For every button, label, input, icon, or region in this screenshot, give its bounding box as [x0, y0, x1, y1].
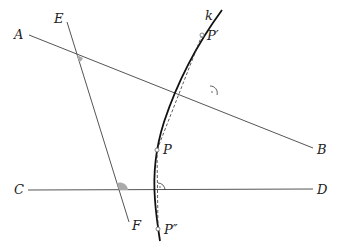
- right-angle-mark-AB: [210, 86, 217, 95]
- label-k: k: [205, 8, 213, 23]
- label-E: E: [53, 11, 64, 26]
- line-EF: [67, 22, 129, 222]
- label-P-double-prime: P″: [163, 222, 178, 237]
- line-CD: [28, 189, 313, 190]
- line-AB: [29, 35, 313, 148]
- right-angle-dot-AB: [211, 91, 212, 92]
- label-F: F: [131, 218, 142, 233]
- label-P: P: [162, 142, 172, 157]
- label-D: D: [316, 182, 328, 197]
- label-P-prime: P′: [206, 28, 219, 43]
- point-P-prime: [200, 33, 204, 37]
- geometry-diagram: A B C D E F k P′ P P″: [0, 0, 339, 252]
- curve-k: [154, 10, 222, 241]
- right-angle-dot-CD: [159, 186, 160, 187]
- label-C: C: [14, 182, 24, 197]
- point-P: [155, 148, 159, 152]
- right-angle-mark-CD: [158, 183, 165, 190]
- label-A: A: [13, 27, 23, 42]
- point-P-double-prime: [156, 227, 160, 231]
- label-B: B: [316, 142, 327, 157]
